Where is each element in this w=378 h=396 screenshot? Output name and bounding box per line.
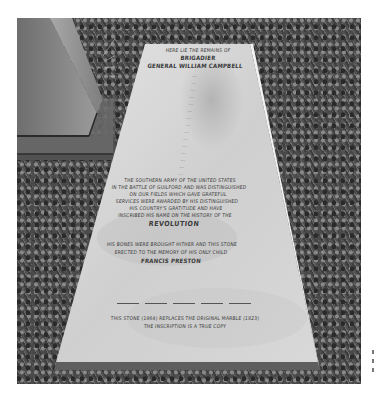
grave-slab xyxy=(17,18,361,384)
edge-artifact xyxy=(372,350,375,380)
gravestone-photo: HERE LIE THE REMAINS OF BRIGADIER GENERA… xyxy=(17,18,361,384)
